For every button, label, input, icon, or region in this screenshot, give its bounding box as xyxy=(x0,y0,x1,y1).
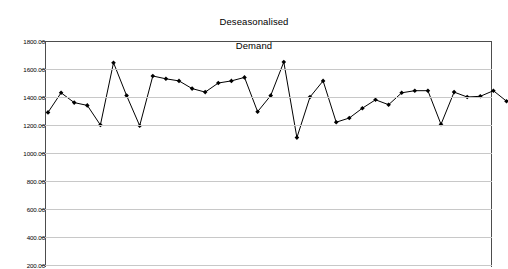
y-axis-tick-label: 1800.00 xyxy=(3,38,45,45)
data-point xyxy=(242,75,247,80)
gridline xyxy=(45,181,492,182)
data-point xyxy=(229,79,234,84)
y-axis-tick-label: 600.00 xyxy=(3,206,45,213)
y-axis-tick-label: 800.00 xyxy=(3,178,45,185)
y-axis-tick-label: 1200.00 xyxy=(3,122,45,129)
y-axis: 1800.001600.001400.001200.001000.00800.0… xyxy=(0,0,45,267)
gridline xyxy=(45,125,492,126)
data-point xyxy=(177,79,182,84)
data-point xyxy=(111,60,116,65)
y-axis-tick-label: 200.00 xyxy=(3,262,45,269)
y-axis-tick-label: 1600.00 xyxy=(3,66,45,73)
series-markers xyxy=(46,60,508,140)
data-point xyxy=(295,135,300,140)
y-axis-tick-label: 400.00 xyxy=(3,234,45,241)
data-point xyxy=(413,88,418,93)
gridline xyxy=(45,237,492,238)
y-axis-tick-label: 1000.00 xyxy=(3,150,45,157)
data-point xyxy=(190,86,195,91)
plot-area xyxy=(45,41,492,267)
gridline xyxy=(45,69,492,70)
gridline xyxy=(45,153,492,154)
data-point xyxy=(164,77,169,82)
gridline xyxy=(45,265,492,266)
data-point xyxy=(426,88,431,93)
gridline xyxy=(45,209,492,210)
series-line xyxy=(48,62,508,138)
data-point xyxy=(334,120,339,125)
y-axis-tick-label: 1400.00 xyxy=(3,94,45,101)
chart-title-line-1: Deseasonalised xyxy=(0,16,508,28)
data-point xyxy=(452,90,457,95)
demand-series xyxy=(45,41,492,267)
data-point xyxy=(151,74,156,79)
data-point xyxy=(282,60,287,65)
gridline xyxy=(45,97,492,98)
